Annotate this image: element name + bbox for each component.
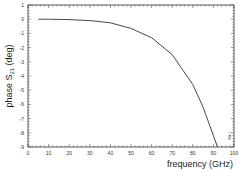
x-tick-label: 0: [27, 150, 30, 156]
x-tick-label: 30: [87, 150, 93, 156]
y-tick-label: -3: [20, 59, 25, 65]
x-tick-label: 80: [190, 150, 196, 156]
x-tick-label: 70: [169, 150, 175, 156]
phase-chart: 0102030405060708090100 10-1-2-3-4-5-6-7-…: [0, 0, 239, 172]
y-tick-label: -7: [20, 116, 25, 122]
y-axis-title-unit: (deg): [4, 44, 14, 68]
x-tick-label: 60: [149, 150, 155, 156]
x-tick-label: 100: [230, 150, 239, 156]
x-tick-label: 10: [46, 150, 52, 156]
y-tick-label: -5: [20, 87, 25, 93]
y-axis-title-main: phase S: [4, 75, 14, 108]
y-tick-label: 0: [21, 16, 24, 22]
y-tick-label: -4: [20, 73, 25, 79]
y-tick-label: -9: [20, 144, 25, 150]
y-tick-label: 1: [21, 2, 24, 8]
x-tick-labels: 0102030405060708090100: [27, 150, 239, 156]
x-tick-label: 20: [66, 150, 72, 156]
y-tick-labels: 10-1-2-3-4-5-6-7-8-9: [20, 2, 25, 150]
x-axis-title: frequency (GHz): [167, 159, 233, 169]
x-tick-label: 90: [211, 150, 217, 156]
y-tick-label: -1: [20, 30, 25, 36]
y-tick-label: -2: [20, 45, 25, 51]
y-axis-title: phase S21 (deg): [4, 44, 15, 107]
y-tick-label: -8: [20, 130, 25, 136]
y-tick-label: -6: [20, 101, 25, 107]
x-tick-label: 40: [108, 150, 114, 156]
plot-frame: [28, 5, 234, 147]
x-tick-label: 50: [128, 150, 134, 156]
axis-ticks: [28, 5, 234, 147]
corner-note: MW-1: [228, 132, 232, 140]
phase-curve: [38, 19, 217, 147]
